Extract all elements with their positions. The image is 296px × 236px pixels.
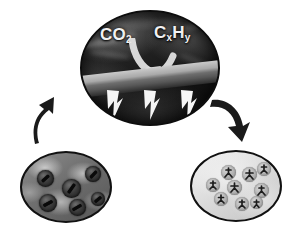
graphical-abstract-figure: CO2 CxHy bbox=[0, 0, 296, 236]
nanoparticle-with-cluster bbox=[214, 192, 228, 206]
branched-cluster-icon bbox=[235, 197, 249, 211]
lightning-bolt-icon bbox=[104, 90, 126, 120]
branched-cluster-icon bbox=[227, 180, 242, 195]
nanoparticle-with-cluster bbox=[242, 167, 257, 182]
plasma-co2-conversion-panel: CO2 CxHy bbox=[80, 10, 220, 126]
pore-with-particle bbox=[85, 166, 101, 182]
smoke-streak-icon bbox=[90, 49, 130, 60]
branched-cluster-icon bbox=[206, 178, 220, 192]
porous-support-panel bbox=[20, 151, 112, 223]
elongated-particle bbox=[72, 203, 82, 211]
arrow-regeneration-up-icon bbox=[33, 96, 73, 144]
arrow-restructuring-down-icon bbox=[210, 96, 256, 144]
nanoparticle-with-cluster bbox=[227, 180, 242, 195]
elongated-particle bbox=[67, 183, 76, 194]
product-label-y: y bbox=[185, 32, 191, 43]
branched-cluster-icon bbox=[250, 197, 263, 210]
nanoparticle-with-cluster bbox=[221, 165, 236, 180]
branched-cluster-icon bbox=[221, 165, 236, 180]
nanoparticle-with-cluster bbox=[235, 197, 249, 211]
elongated-particle bbox=[41, 174, 50, 182]
reactant-label-text: CO bbox=[100, 25, 126, 44]
nanoparticle-with-cluster bbox=[206, 178, 220, 192]
elongated-particle bbox=[43, 199, 53, 206]
plasma-discharge-group bbox=[104, 90, 200, 120]
nanoparticle-with-cluster bbox=[250, 196, 263, 209]
elongated-particle bbox=[94, 195, 102, 202]
pore-with-particle bbox=[39, 194, 57, 212]
nanoparticle-with-cluster bbox=[257, 162, 271, 176]
branched-cluster-icon bbox=[214, 192, 228, 206]
pore-with-particle bbox=[37, 170, 54, 187]
branched-cluster-icon bbox=[242, 167, 257, 182]
dispersed-nanoparticle-panel bbox=[190, 150, 282, 222]
pore-with-particle bbox=[62, 179, 81, 198]
pore-with-particle bbox=[91, 192, 105, 206]
lightning-bolt-icon bbox=[178, 90, 200, 120]
pore-with-particle bbox=[69, 199, 86, 216]
branched-cluster-icon bbox=[257, 162, 271, 176]
reactant-label-co2: CO2 bbox=[100, 25, 132, 45]
elongated-particle bbox=[89, 170, 97, 179]
lightning-bolt-icon bbox=[141, 90, 163, 120]
